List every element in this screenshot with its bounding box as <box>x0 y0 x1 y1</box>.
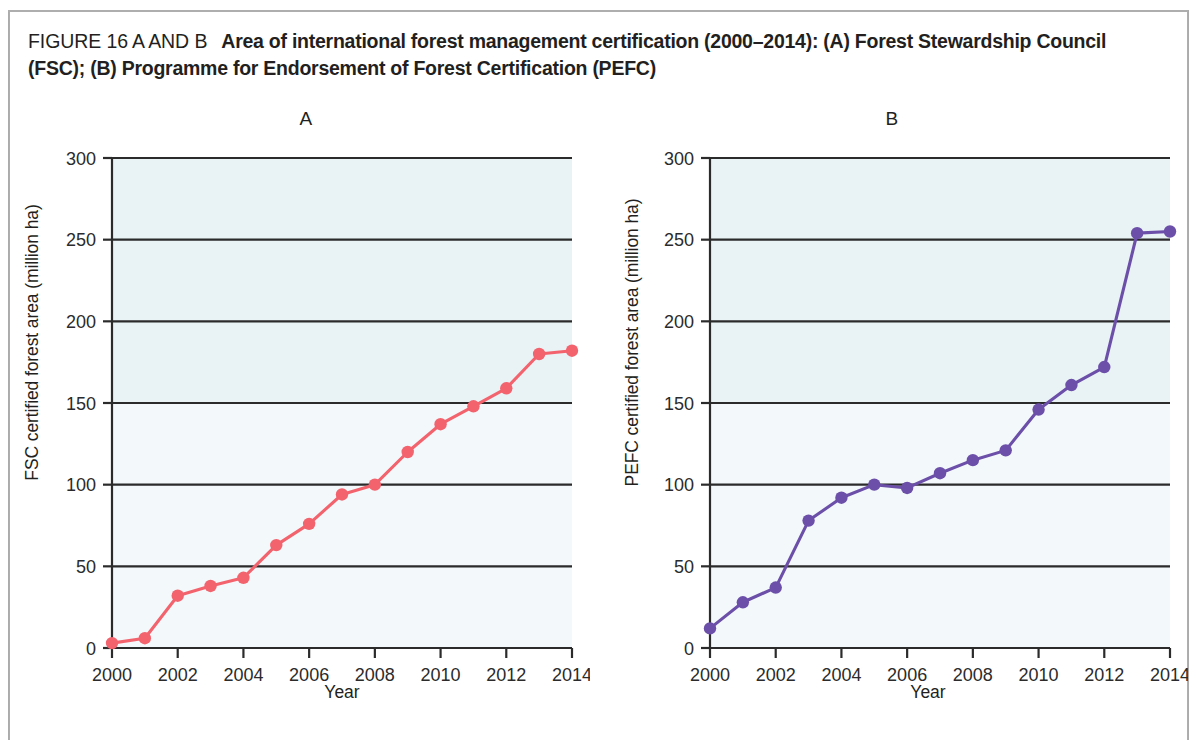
panel-a-data-point <box>533 348 545 360</box>
panel-b-data-point <box>868 478 880 490</box>
panel-a-data-point <box>106 637 118 649</box>
figure-caption: FIGURE 16 A AND BArea of international f… <box>28 28 1168 81</box>
panel-b-x-tick-label: 2010 <box>1019 665 1059 685</box>
panel-a-y-tick-label: 150 <box>66 394 96 414</box>
panel-b-data-point <box>835 492 847 504</box>
panel-b-x-tick-label: 2006 <box>887 665 927 685</box>
panel-b-y-tick-label: 200 <box>664 312 694 332</box>
panel-b-y-tick-label: 50 <box>674 557 694 577</box>
panel-b-y-tick-label: 150 <box>664 394 694 414</box>
panel-b-x-tick-label: 2008 <box>953 665 993 685</box>
panel-a-x-tick-label: 2008 <box>355 665 395 685</box>
figure-container: FIGURE 16 A AND BArea of international f… <box>0 0 1197 740</box>
panel-a-data-point <box>237 572 249 584</box>
panel-b-x-tick-label: 2000 <box>690 665 730 685</box>
panel-a-data-point <box>204 580 216 592</box>
panel-a-x-tick-label: 2000 <box>92 665 132 685</box>
panel-a-x-tick-label: 2010 <box>421 665 461 685</box>
panel-a-data-point <box>500 382 512 394</box>
panel-a-x-tick-label: 2014 <box>552 665 590 685</box>
panel-a-x-tick-label: 2004 <box>223 665 263 685</box>
panel-a-data-point <box>566 345 578 357</box>
panel-b-data-point <box>1000 444 1012 456</box>
panel-a-data-point <box>402 446 414 458</box>
panel-a-data-point <box>303 518 315 530</box>
panel-b-data-point <box>802 514 814 526</box>
panel-a-data-point <box>336 488 348 500</box>
panel-a-y-tick-label: 0 <box>86 639 96 659</box>
panel-a-data-point <box>139 632 151 644</box>
panel-a-x-tick-label: 2002 <box>158 665 198 685</box>
panel-a-y-tick-label: 250 <box>66 230 96 250</box>
panel-b-data-point <box>1032 403 1044 415</box>
panel-b-data-point <box>1098 361 1110 373</box>
panel-b-data-point <box>770 581 782 593</box>
panel-b-data-point <box>1065 379 1077 391</box>
panel-a-plot-background-band <box>112 158 572 403</box>
panel-a-svg: 0501001502002503002000200220042006200820… <box>10 104 590 729</box>
panel-a-data-point <box>270 539 282 551</box>
chart-panel-a: A FSC certified forest area (million ha)… <box>10 104 590 729</box>
panel-a-y-tick-label: 200 <box>66 312 96 332</box>
panel-b-data-point <box>901 482 913 494</box>
panel-b-data-point <box>704 622 716 634</box>
panel-b-data-point <box>1131 227 1143 239</box>
panel-b-y-tick-label: 100 <box>664 475 694 495</box>
panel-b-data-point <box>1164 225 1176 237</box>
figure-number-label: FIGURE 16 A AND B <box>28 30 207 52</box>
panel-b-x-tick-label: 2002 <box>756 665 796 685</box>
panel-a-y-tick-label: 100 <box>66 475 96 495</box>
panel-b-svg: 0501001502002503002000200220042006200820… <box>608 104 1188 729</box>
panel-b-y-tick-label: 250 <box>664 230 694 250</box>
panel-b-x-tick-label: 2004 <box>821 665 861 685</box>
panel-b-plot-area: 0501001502002503002000200220042006200820… <box>608 104 1188 729</box>
panel-a-y-tick-label: 50 <box>76 557 96 577</box>
chart-panel-b: B PEFC certified forest area (million ha… <box>608 104 1188 729</box>
panel-a-data-point <box>369 478 381 490</box>
panel-a-x-tick-label: 2012 <box>486 665 526 685</box>
panel-a-y-tick-label: 300 <box>66 149 96 169</box>
figure-frame-top-border <box>8 10 1189 12</box>
panel-b-y-tick-label: 300 <box>664 149 694 169</box>
panel-a-data-point <box>467 400 479 412</box>
panel-a-plot-area: 0501001502002503002000200220042006200820… <box>10 104 590 729</box>
panel-b-x-tick-label: 2012 <box>1084 665 1124 685</box>
panel-a-data-point <box>172 590 184 602</box>
panel-b-y-tick-label: 0 <box>684 639 694 659</box>
panel-b-data-point <box>967 454 979 466</box>
panel-b-data-point <box>934 467 946 479</box>
panel-b-data-point <box>737 596 749 608</box>
panel-b-x-tick-label: 2014 <box>1150 665 1188 685</box>
panel-a-data-point <box>434 418 446 430</box>
panel-a-x-tick-label: 2006 <box>289 665 329 685</box>
